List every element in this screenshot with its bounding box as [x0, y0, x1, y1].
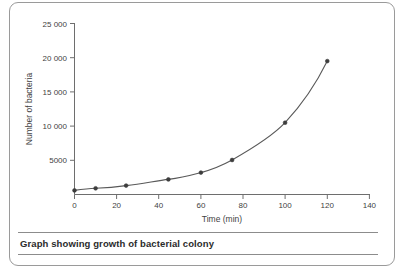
bacteria-growth-chart: 25 000 20 000 15 000 10 000 5000 0 20 40… — [10, 3, 396, 227]
y-tick-label-15000: 15 000 — [43, 88, 68, 97]
data-point-25 — [124, 184, 128, 188]
data-point-10 — [94, 186, 98, 190]
caption-rule-bottom — [18, 254, 378, 255]
data-point-120 — [325, 59, 329, 63]
y-tick-label-25000: 25 000 — [43, 20, 68, 29]
y-axis-ticks — [70, 24, 75, 161]
x-tick-label-80: 80 — [239, 201, 248, 210]
x-tick-label-40: 40 — [154, 201, 163, 210]
data-point-100 — [283, 121, 287, 125]
y-axis-tick-labels: 25 000 20 000 15 000 10 000 5000 — [43, 20, 68, 166]
data-point-0 — [73, 189, 77, 193]
x-axis-ticks — [75, 195, 370, 200]
figure-card: 25 000 20 000 15 000 10 000 5000 0 20 40… — [9, 2, 395, 266]
x-tick-label-60: 60 — [196, 201, 205, 210]
x-axis-title: Time (min) — [202, 214, 242, 224]
figure-caption-text: Graph showing growth of bacterial colony — [18, 233, 378, 254]
y-tick-label-5000: 5000 — [49, 156, 67, 165]
data-point-75 — [230, 158, 234, 162]
data-points — [73, 59, 330, 192]
x-tick-label-100: 100 — [278, 201, 292, 210]
y-tick-label-20000: 20 000 — [43, 54, 68, 63]
x-axis-tick-labels: 0 20 40 60 80 100 120 140 — [72, 201, 376, 210]
data-point-45 — [167, 178, 171, 182]
chart-plot-area: 25 000 20 000 15 000 10 000 5000 0 20 40… — [10, 3, 396, 227]
data-point-60 — [199, 171, 203, 175]
y-tick-label-10000: 10 000 — [43, 122, 68, 131]
x-tick-label-0: 0 — [72, 201, 77, 210]
x-tick-label-120: 120 — [321, 201, 335, 210]
x-tick-label-140: 140 — [363, 201, 377, 210]
y-axis-title: Number of bacteria — [24, 73, 34, 146]
figure-caption-block: Graph showing growth of bacterial colony — [18, 232, 378, 255]
x-tick-label-20: 20 — [112, 201, 121, 210]
